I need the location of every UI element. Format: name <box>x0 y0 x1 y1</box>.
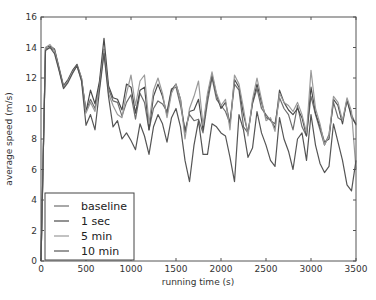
y-tick-label: 6 <box>31 165 37 175</box>
y-axis-label: average speed (m/s) <box>4 92 14 185</box>
x-tick-label: 1500 <box>165 264 188 274</box>
x-tick-label: 2500 <box>255 264 278 274</box>
x-tick-label: 3500 <box>345 264 368 274</box>
x-axis-label: running time (s) <box>162 277 235 287</box>
y-tick-label: 14 <box>26 43 38 53</box>
y-tick-label: 16 <box>26 12 38 22</box>
y-tick-label: 8 <box>31 134 37 144</box>
legend-label: 5 min <box>81 230 112 243</box>
line-chart: 0500100015002000250030003500024681012141… <box>0 0 376 300</box>
x-tick-label: 1000 <box>120 264 143 274</box>
y-tick-label: 12 <box>26 73 37 83</box>
x-tick-label: 3000 <box>300 264 323 274</box>
y-tick-label: 0 <box>31 256 37 266</box>
y-tick-label: 4 <box>31 195 37 205</box>
y-tick-label: 2 <box>31 226 37 236</box>
y-tick-label: 10 <box>26 104 38 114</box>
legend-label: 1 sec <box>81 215 110 228</box>
legend: baseline1 sec5 min10 min <box>45 193 134 260</box>
legend-label: baseline <box>81 200 127 213</box>
legend-label: 10 min <box>81 245 119 258</box>
x-tick-label: 0 <box>38 264 44 274</box>
x-tick-label: 2000 <box>210 264 233 274</box>
x-tick-label: 500 <box>77 264 94 274</box>
